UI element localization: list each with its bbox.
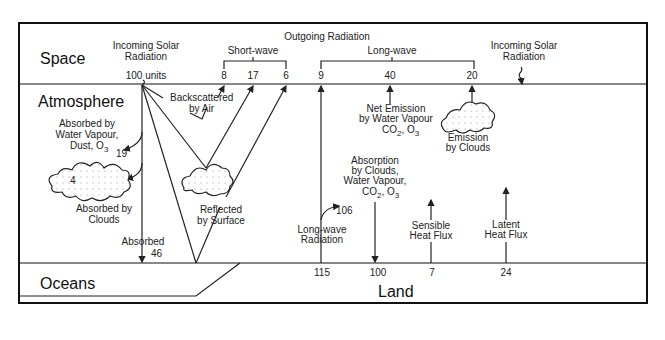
long-wave-label: Long-wave <box>368 45 417 56</box>
long-wave-bracket <box>321 57 474 69</box>
diagram-frame <box>19 23 647 303</box>
incoming-units: 100 units <box>126 70 167 81</box>
incoming-solar-right-label-2: Radiation <box>503 51 545 62</box>
cloud-right-dots <box>441 102 494 133</box>
lw-value-9: 9 <box>318 70 324 81</box>
backscattered-label-2: by Air <box>189 103 215 114</box>
absorption-clouds-label-4: CO2, O3 <box>362 186 400 200</box>
region-space: Space <box>40 50 85 67</box>
absorbed-water-label-3: Dust, O3 <box>70 140 109 154</box>
sw-value-17: 17 <box>247 70 259 81</box>
surface-value-24: 24 <box>500 267 512 278</box>
net-emission-label-2: by Water Vapour <box>359 113 434 124</box>
short-wave-bracket <box>224 57 286 69</box>
lw-value-40: 40 <box>384 70 396 81</box>
absorbed-water-value: 19 <box>116 148 128 159</box>
absorbed-label: Absorbed <box>122 236 165 247</box>
short-wave-label: Short-wave <box>228 45 279 56</box>
sw-value-8: 8 <box>221 70 227 81</box>
latent-heat-label-2: Heat Flux <box>485 229 528 240</box>
surface-value-7: 7 <box>429 267 435 278</box>
absorbed-clouds-label-2: Clouds <box>88 214 119 225</box>
earth-radiation-budget-diagram: Space Atmosphere Oceans Land Incoming So… <box>0 0 665 340</box>
reflected-surface-label: Reflected <box>200 204 242 215</box>
region-atmosphere: Atmosphere <box>38 93 124 110</box>
surface-value-115: 115 <box>314 267 330 278</box>
incoming-solar-right-label: Incoming Solar <box>491 40 558 51</box>
region-oceans: Oceans <box>40 275 95 292</box>
sw-value-6: 6 <box>283 70 289 81</box>
absorbed-water-label: Absorbed by <box>59 118 115 129</box>
backscattered-label: Backscattered <box>170 92 233 103</box>
absorbed-clouds-label: Absorbed by <box>76 203 132 214</box>
incoming-solar-label: Incoming Solar <box>113 40 180 51</box>
lw-value-20: 20 <box>466 70 478 81</box>
incoming-solar-right-arrow <box>519 67 522 84</box>
reflected-surface-label-2: by Surface <box>197 215 245 226</box>
surface-reflect-up <box>226 86 286 197</box>
sensible-heat-label-2: Heat Flux <box>410 230 453 241</box>
region-land: Land <box>378 283 414 300</box>
incoming-solar-label-2: Radiation <box>125 51 167 62</box>
long-wave-radiation-label-2: Radiation <box>301 234 343 245</box>
absorbed-water-label-2: Water Vapour, <box>56 129 119 140</box>
absorbed-value: 46 <box>151 248 163 259</box>
net-emission-label-3: CO2, O3 <box>382 124 420 138</box>
cloud-value-4: 4 <box>70 175 76 186</box>
absorption-clouds-label-3: Water Vapour, <box>344 175 407 186</box>
outgoing-radiation-label: Outgoing Radiation <box>284 31 370 42</box>
cloud-left-dots <box>49 162 130 200</box>
emission-clouds-label-2: by Clouds <box>446 142 490 153</box>
surface-value-100: 100 <box>370 267 387 278</box>
lw-value-106: 106 <box>336 205 353 216</box>
